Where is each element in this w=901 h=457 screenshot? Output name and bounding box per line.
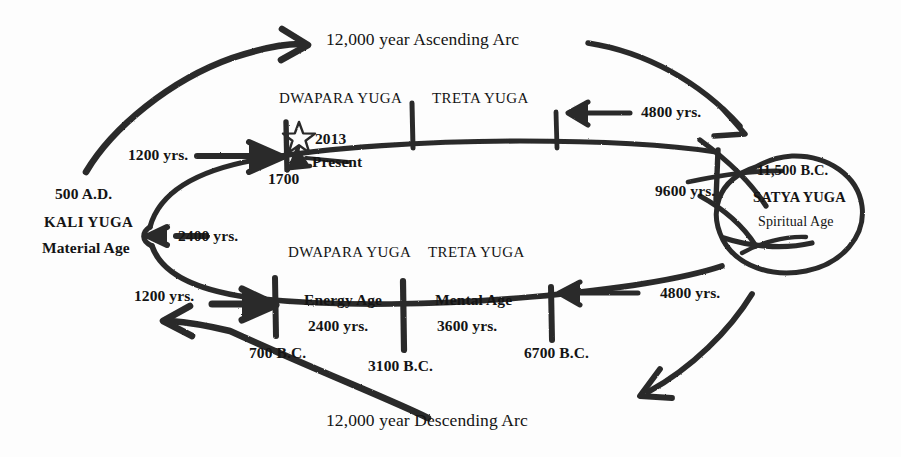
date-700bc-label: 700 B.C. <box>249 345 306 361</box>
mental-age-label: Mental Age <box>435 292 512 308</box>
tick-3100bc <box>403 281 404 350</box>
tick-dwapara-treta-upper <box>412 103 413 148</box>
present-year-label: 2013 <box>315 131 346 147</box>
ascending-arc-label: 12,000 year Ascending Arc <box>326 30 519 48</box>
satya-subtitle-label: Spiritual Age <box>758 215 834 230</box>
energy-age-duration-label: 2400 yrs. <box>308 318 368 334</box>
upper-treta-yuga-label: TRETA YUGA <box>432 91 529 107</box>
satya-tick <box>716 150 718 200</box>
yuga-cycle-diagram: 12,000 year Ascending Arc 12,000 year De… <box>0 0 901 457</box>
date-1700-label: 1700 <box>268 171 299 187</box>
upper-4800-yrs-label: 4800 yrs. <box>641 104 701 120</box>
tick-treta-satya-upper <box>556 112 557 148</box>
upper-1200-yrs-label: 1200 yrs. <box>128 147 188 163</box>
lower-4800-yrs-label: 4800 yrs. <box>660 285 720 301</box>
arrow-1200-upper <box>197 142 283 172</box>
lower-dwapara-yuga-label: DWAPARA YUGA <box>288 245 411 261</box>
upper-dwapara-yuga-label: DWAPARA YUGA <box>279 91 402 107</box>
lower-1200-yrs-label: 1200 yrs. <box>134 288 194 304</box>
mental-age-duration-label: 3600 yrs. <box>437 318 497 334</box>
lower-treta-yuga-label: TRETA YUGA <box>428 245 525 261</box>
date-6700bc-label: 6700 B.C. <box>524 345 589 361</box>
kali-date-label: 500 A.D. <box>55 186 112 202</box>
kali-subtitle-label: Material Age <box>42 240 130 256</box>
present-label: Present <box>312 154 362 170</box>
upper-9600-yrs-label: 9600 yrs. <box>655 183 715 199</box>
energy-age-label: Energy Age <box>304 292 382 308</box>
tick-1700 <box>286 122 287 170</box>
satya-date-label: 11,500 B.C. <box>757 163 828 178</box>
descending-arc-label: 12,000 year Descending Arc <box>326 411 528 429</box>
ascending-arc-entry <box>588 43 745 136</box>
arrow-4800-upper <box>568 102 630 125</box>
satya-yuga-label: SATYA YUGA <box>753 190 846 205</box>
tick-6700bc <box>551 287 552 340</box>
kali-2400-yrs-label: 2400 yrs. <box>178 228 238 244</box>
descending-arc-exit <box>640 294 752 398</box>
date-3100bc-label: 3100 B.C. <box>368 358 433 374</box>
kali-yuga-label: KALI YUGA <box>44 215 133 231</box>
